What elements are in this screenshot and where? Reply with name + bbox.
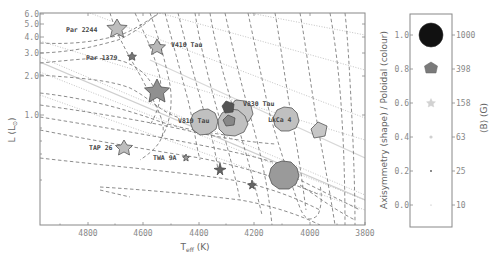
legend-right-tick-labels: 1000 398 158 63 25 10 <box>456 31 475 210</box>
legend: 1.0 0.8 0.6 0.4 0.2 0.0 1000 398 158 63 … <box>379 14 489 227</box>
label-lkca-4: LkCa 4 <box>268 116 292 124</box>
legend-left-tick-labels: 1.0 0.8 0.6 0.4 0.2 0.0 <box>395 31 410 210</box>
y-tick-labels: 6.0 5.0 4.0 3.0 2.0 1.0 <box>25 10 40 120</box>
x-tick-label: 4200 <box>244 229 263 238</box>
y-tick-label: 2.0 <box>25 72 40 81</box>
label-twa-9a: TWA 9A <box>153 154 177 162</box>
legend-left-tick: 0.2 <box>395 167 410 176</box>
label-par-2244: Par 2244 <box>66 26 97 34</box>
legend-right-tick: 10 <box>456 201 466 210</box>
y-tick-label: 5.0 <box>25 20 40 29</box>
x-tick-label: 3800 <box>355 229 374 238</box>
x-tick-label: 4400 <box>189 229 208 238</box>
legend-marker-dot-dark <box>430 170 432 172</box>
y-tick-label: 1.0 <box>25 111 40 120</box>
label-v830-tau: V830 Tau <box>243 100 274 108</box>
x-axis-label: Teff (K) <box>179 242 209 253</box>
legend-left-tick: 0.4 <box>395 133 410 142</box>
legend-right-tick: 398 <box>456 65 471 74</box>
x-tick-labels: 4800 4600 4400 4200 4000 3800 <box>78 229 374 238</box>
legend-left-tick: 1.0 <box>395 31 410 40</box>
label-v819-tau: V819 Tau <box>178 117 209 125</box>
legend-right-tick: 1000 <box>456 31 475 40</box>
hr-diagram-figure: 4800 4600 4400 4200 4000 3800 6.0 <box>0 0 495 254</box>
label-v410-tau: V410 Tau <box>171 41 202 49</box>
y-tick-label: 6.0 <box>25 10 40 19</box>
label-tap-26: TAP 26 <box>89 144 113 152</box>
legend-right-tick: 158 <box>456 99 471 108</box>
x-tick-label: 4800 <box>78 229 97 238</box>
polygon-marker-unlabeled-lower <box>269 161 299 189</box>
legend-right-tick: 63 <box>456 133 466 142</box>
y-axis-label: L (L⊙) <box>7 118 18 143</box>
legend-marker-circle-black <box>419 23 443 47</box>
legend-marker-dot-tiny <box>430 204 431 205</box>
main-plot: 4800 4600 4400 4200 4000 3800 6.0 <box>7 10 375 253</box>
x-tick-label: 4000 <box>300 229 319 238</box>
legend-left-tick: 0.8 <box>395 65 410 74</box>
y-tick-label: 4.0 <box>25 33 40 42</box>
legend-right-axis-label: ⟨B⟩ (G) <box>479 103 489 133</box>
x-tick-label: 4600 <box>133 229 152 238</box>
legend-left-tick: 0.0 <box>395 201 410 210</box>
label-par-1379: Par 1379 <box>86 54 117 62</box>
legend-left-axis-label: Axisymmetry (shape) / Poloidal (colour) <box>379 31 389 209</box>
legend-marker-dot-light <box>429 135 432 138</box>
legend-left-tick: 0.6 <box>395 99 410 108</box>
legend-right-tick: 25 <box>456 167 466 176</box>
y-tick-label: 3.0 <box>25 49 40 58</box>
